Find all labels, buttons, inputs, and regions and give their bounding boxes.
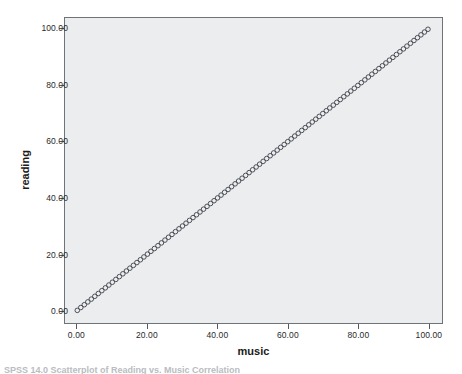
x-tick-mark xyxy=(429,324,430,329)
y-tick-label: 80.00 xyxy=(46,80,68,90)
x-tick-label: 20.00 xyxy=(136,330,158,340)
y-tick-label: 20.00 xyxy=(46,250,68,260)
x-tick-mark xyxy=(358,324,359,329)
scatter-canvas xyxy=(65,18,442,323)
y-tick-label: 0.00 xyxy=(51,306,68,316)
x-tick-mark xyxy=(76,324,77,329)
clipped-caption: SPSS 14.0 Scatterplot of Reading vs. Mus… xyxy=(4,366,444,374)
x-tick-label: 60.00 xyxy=(277,330,299,340)
x-tick-label: 0.00 xyxy=(68,330,85,340)
y-tick-label: 40.00 xyxy=(46,193,68,203)
scatterplot-figure: 0.0020.0040.0060.0080.00100.00 0.0020.00… xyxy=(0,0,462,374)
y-tick-label: 100.00 xyxy=(41,23,68,33)
x-axis-title: music xyxy=(64,345,443,357)
x-tick-label: 100.00 xyxy=(416,330,443,340)
x-tick-mark xyxy=(147,324,148,329)
plot-area xyxy=(64,17,443,324)
x-tick-mark xyxy=(288,324,289,329)
x-tick-label: 80.00 xyxy=(347,330,369,340)
y-tick-label: 60.00 xyxy=(46,136,68,146)
x-tick-label: 40.00 xyxy=(206,330,228,340)
y-axis-title: reading xyxy=(19,150,31,190)
data-point xyxy=(426,27,431,32)
x-tick-mark xyxy=(217,324,218,329)
